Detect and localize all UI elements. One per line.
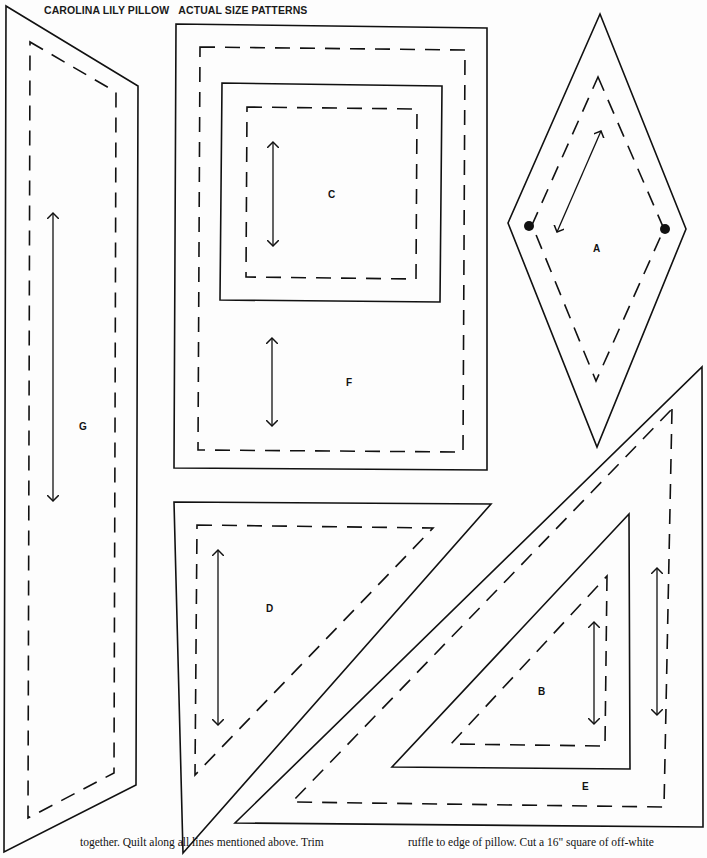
piece-label-d: D bbox=[266, 603, 273, 614]
piece-d-seam-line bbox=[195, 525, 433, 775]
piece-label-e: E bbox=[582, 781, 589, 792]
piece-label-f: F bbox=[346, 377, 352, 388]
grainline-arrow-icon bbox=[557, 131, 601, 232]
instructions-text-left: together. Quilt along all lines mentione… bbox=[80, 836, 324, 848]
piece-label-g: G bbox=[79, 421, 87, 432]
piece-d bbox=[174, 502, 491, 853]
instructions-text-right: ruffle to edge of pillow. Cut a 16" squa… bbox=[408, 836, 654, 848]
piece-label-a: A bbox=[593, 243, 600, 254]
piece-b bbox=[392, 514, 630, 769]
pattern-page: CAROLINA LILY PILLOWACTUAL SIZE PATTERNS bbox=[0, 0, 707, 858]
piece-g bbox=[4, 6, 138, 852]
piece-label-b: B bbox=[538, 686, 545, 697]
match-dot-icon bbox=[524, 221, 534, 231]
match-dot-icon bbox=[660, 224, 670, 234]
piece-d-cut-line bbox=[174, 502, 491, 853]
piece-g-seam-line bbox=[28, 42, 116, 818]
pattern-drawing bbox=[0, 0, 707, 858]
piece-label-c: C bbox=[328, 189, 335, 200]
piece-a bbox=[508, 14, 686, 447]
piece-b-seam-line bbox=[451, 576, 607, 746]
piece-g-cut-line bbox=[4, 6, 138, 852]
piece-e bbox=[235, 367, 703, 827]
piece-e-cut-line bbox=[235, 367, 703, 827]
